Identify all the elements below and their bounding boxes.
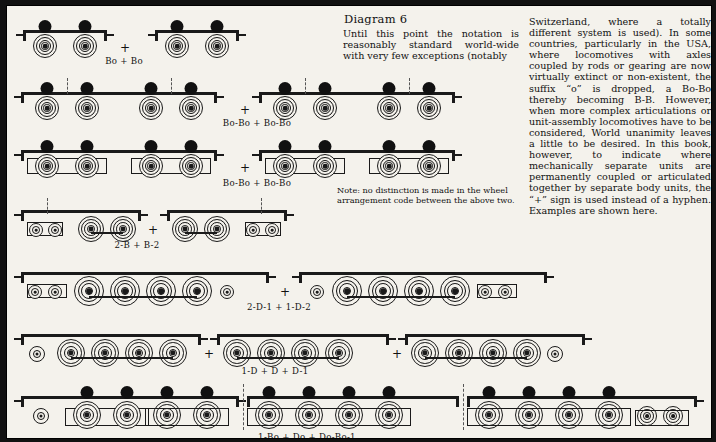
locomotive-row: +2-D-1 + 1-D-2 <box>7 260 711 314</box>
locomotive-body-unit <box>21 272 269 284</box>
traction-motor-dot <box>39 20 52 33</box>
wheel-arrangement-label: 1-Bo + Do + Do-Bo-1 <box>258 432 356 439</box>
body-end-cap-left <box>259 150 262 161</box>
driving-wheel <box>204 216 230 242</box>
wheel-hub <box>85 106 90 111</box>
buffer-right <box>547 276 554 278</box>
buffer-right <box>217 96 224 98</box>
driving-wheel <box>411 339 439 367</box>
wheel-hub <box>283 164 288 169</box>
traction-motor-dot <box>483 386 496 399</box>
traction-motor-dot <box>383 140 396 153</box>
articulation-pivot-line <box>409 78 410 94</box>
driving-wheel <box>73 34 97 58</box>
wheel-arrangement-label: 1-D + D + D-1 <box>242 366 309 376</box>
driving-wheel <box>291 339 319 367</box>
carrying-wheel <box>220 285 234 299</box>
traction-motor-dot <box>383 82 396 95</box>
wheel-arrangement-label: 2-D-1 + 1-D-2 <box>247 302 311 312</box>
wheel-hub <box>427 106 432 111</box>
carrying-wheel <box>310 285 324 299</box>
body-end-cap-left <box>299 272 302 283</box>
buffer-left <box>14 154 21 156</box>
driving-wheel <box>313 154 337 178</box>
traction-motor-dot <box>423 82 436 95</box>
wheel-hub <box>427 164 432 169</box>
plus-separator: + <box>392 348 402 360</box>
body-end-cap-left <box>155 30 158 41</box>
driving-wheel <box>172 216 198 242</box>
locomotive-row: +Bo + Bo <box>7 14 711 64</box>
driving-wheel <box>417 96 441 120</box>
carrying-wheel <box>265 223 279 237</box>
locomotive-row: +Bo-Bo + Bo-Bo <box>7 76 711 128</box>
driving-wheel <box>313 96 337 120</box>
wheel-hub <box>83 44 88 49</box>
coupling-rod <box>71 357 173 359</box>
body-end-cap-left <box>247 396 250 407</box>
buffer-left <box>252 154 259 156</box>
body-end-cap-left <box>21 272 24 283</box>
wheel-hub <box>215 227 220 232</box>
driving-wheel <box>223 339 251 367</box>
wheel-hub <box>380 288 386 294</box>
driving-wheel <box>75 96 99 120</box>
wheel-hub <box>504 291 507 294</box>
wheel-arrangement-label: 2-B + B-2 <box>115 240 160 250</box>
carrying-wheel <box>29 223 43 237</box>
wheel-hub <box>344 288 350 294</box>
wheel-hub <box>149 164 154 169</box>
buffer-right <box>697 400 704 402</box>
traction-motor-dot <box>279 82 292 95</box>
traction-motor-dot <box>145 140 158 153</box>
buffer-left <box>398 338 405 340</box>
articulation-pivot-line <box>305 78 306 94</box>
articulation-pivot-line <box>463 384 464 430</box>
wheel-hub <box>149 106 154 111</box>
body-deck <box>21 334 201 337</box>
wheel-hub <box>54 229 57 232</box>
traction-motor-dot <box>41 140 54 153</box>
buffer-right <box>217 154 224 156</box>
body-end-cap-right <box>456 396 459 407</box>
body-deck <box>217 334 389 337</box>
articulation-pivot-line <box>243 384 244 430</box>
body-end-cap-left <box>467 396 470 407</box>
wheel-hub <box>452 288 458 294</box>
driving-wheel <box>513 339 541 367</box>
traction-motor-dot <box>383 386 396 399</box>
driving-wheel <box>325 339 353 367</box>
driving-wheel <box>404 276 434 306</box>
buffer-right <box>239 34 246 36</box>
wheel-arrangement-label: Bo + Bo <box>105 56 143 66</box>
locomotive-row: 1-Bo + Do + Do-Bo-1 <box>7 386 711 439</box>
buffer-right <box>455 154 462 156</box>
coupling-rod <box>237 357 339 359</box>
wheel-hub <box>323 164 328 169</box>
buffer-left <box>14 338 21 340</box>
traction-motor-dot <box>81 82 94 95</box>
driving-wheel <box>139 154 163 178</box>
traction-motor-dot <box>185 82 198 95</box>
driving-wheel <box>110 216 136 242</box>
buffer-right <box>455 96 462 98</box>
wheel-hub <box>35 229 38 232</box>
wheel-hub <box>175 44 180 49</box>
driving-wheel <box>205 34 229 58</box>
articulation-pivot-line <box>67 78 68 94</box>
wheel-hub <box>183 227 188 232</box>
bogie-frame <box>247 408 411 426</box>
locomotive-row: +Bo-Bo + Bo-Bo <box>7 136 711 188</box>
body-end-cap-left <box>21 396 24 407</box>
driving-wheel <box>35 154 59 178</box>
buffer-right <box>585 338 592 340</box>
coupling-rod <box>185 232 217 234</box>
wheel-hub <box>122 288 128 294</box>
body-deck <box>299 272 547 275</box>
articulation-pivot-line <box>261 198 262 214</box>
buffer-left <box>14 96 21 98</box>
wheel-hub <box>387 106 392 111</box>
driving-wheel <box>73 401 101 429</box>
buffer-right <box>141 214 148 216</box>
wheel-hub <box>121 227 126 232</box>
